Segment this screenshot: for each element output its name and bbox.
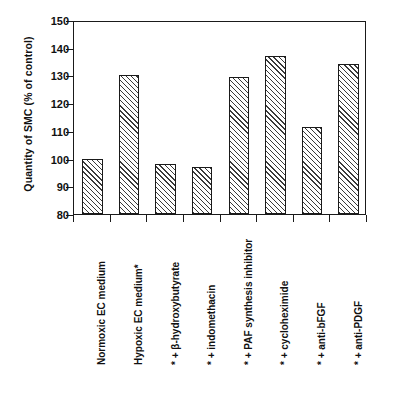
x-axis-category-label: * + anti-bFGF [316, 303, 327, 366]
bar [82, 159, 103, 214]
x-axis-tick-mark [366, 215, 367, 222]
x-axis-category-label: Normoxic EC medium [96, 261, 107, 365]
y-axis-tick-label: 110 [9, 126, 69, 138]
plot-area [73, 21, 366, 215]
bar [338, 64, 359, 214]
bar-chart-figure: Quantity of SMC (% of control) 809010011… [0, 0, 396, 397]
y-axis-tick-label: 100 [9, 154, 69, 166]
x-axis-tick-mark [256, 215, 257, 222]
x-axis-tick-mark [220, 215, 221, 222]
x-axis-category-label: * + indomethacin [206, 285, 217, 365]
x-axis-tick-mark [110, 215, 111, 222]
x-axis-tick-mark [146, 215, 147, 222]
y-axis-tick-label: 130 [9, 70, 69, 82]
bar [155, 164, 176, 214]
x-axis-tick-mark [73, 215, 74, 222]
x-axis-tick-mark [183, 215, 184, 222]
bar [265, 56, 286, 214]
bar [192, 167, 213, 214]
x-axis-category-label: * + cycloheximide [279, 281, 290, 365]
y-axis-tick-label: 140 [9, 43, 69, 55]
bar [229, 77, 250, 214]
x-axis-category-label: * + anti-PDGF [353, 301, 364, 365]
y-axis-tick-label: 80 [9, 209, 69, 221]
x-axis-tick-mark [329, 215, 330, 222]
y-axis-tick-label: 120 [9, 98, 69, 110]
bar [119, 75, 140, 214]
x-axis-category-label: * + β-hydroxybutyrate [170, 262, 181, 365]
y-axis-tick-label: 150 [9, 15, 69, 27]
bar [302, 127, 323, 214]
x-axis-tick-mark [293, 215, 294, 222]
x-axis-category-label: Hypoxic EC medium* [133, 264, 144, 365]
x-axis-category-label: * + PAF synthesis inhibitor [243, 239, 254, 365]
y-axis-tick-label: 90 [9, 181, 69, 193]
